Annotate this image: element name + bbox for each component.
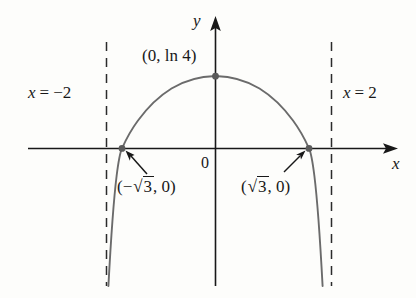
y-intercept-label: (0, ln 4)	[142, 47, 196, 64]
right-label-sqrt-group: √3	[247, 178, 268, 195]
right-asymptote-label: x=2	[343, 84, 377, 101]
point-right-x-intercept	[306, 145, 313, 152]
left-label-sqrt-group: √3	[132, 178, 153, 195]
left-asymptote-value: −2	[53, 83, 71, 102]
right-x-intercept-label: (√3, 0)	[241, 178, 290, 195]
sqrt-radical-icon: √	[248, 177, 257, 196]
right-leader-line	[284, 156, 300, 172]
figure-canvas: y x 0 (0, ln 4) x=−2 x=2 (−√3, 0) (√3, 0…	[0, 0, 416, 298]
left-x-intercept-label: (−√3, 0)	[117, 178, 176, 195]
origin-label: 0	[201, 155, 209, 171]
right-label-tail: , 0)	[268, 177, 291, 196]
graph-svg	[0, 0, 416, 298]
left-label-radicand: 3	[143, 178, 154, 195]
left-leader-line	[131, 156, 147, 174]
left-asymptote-label: x=−2	[28, 84, 71, 101]
right-label-radicand: 3	[257, 178, 268, 195]
point-y-intercept	[212, 73, 219, 80]
right-asymptote-equals: =	[355, 83, 365, 102]
point-left-x-intercept	[119, 145, 126, 152]
right-asymptote-value: 2	[368, 83, 377, 102]
left-label-tail: , 0)	[153, 177, 176, 196]
left-label-minus-sign: −	[123, 177, 133, 196]
left-asymptote-equals: =	[40, 83, 50, 102]
x-axis-label: x	[392, 155, 400, 172]
left-intercept-leader-arrow	[126, 151, 148, 175]
y-axis-label: y	[193, 12, 201, 29]
right-asymptote-variable: x	[343, 83, 351, 102]
left-asymptote-variable: x	[28, 83, 36, 102]
right-intercept-leader-arrow	[284, 151, 306, 173]
sqrt-radical-icon: √	[133, 177, 142, 196]
y-axis	[210, 16, 221, 286]
x-axis	[28, 143, 398, 154]
